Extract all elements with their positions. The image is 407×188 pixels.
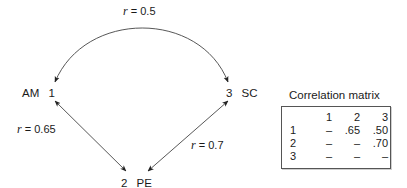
edge-sc-pe bbox=[148, 101, 228, 171]
r-symbol: r bbox=[123, 4, 128, 18]
node-name: SC bbox=[242, 87, 258, 99]
edge-am-sc-arc bbox=[55, 28, 228, 82]
col-header: 3 bbox=[360, 111, 388, 124]
row-header: 2 bbox=[290, 137, 304, 150]
node-name: AM bbox=[22, 87, 39, 99]
matrix-cell: .50 bbox=[360, 124, 388, 137]
r-symbol: r bbox=[191, 138, 196, 152]
matrix-row: 1 – .65 .50 bbox=[290, 124, 388, 137]
correlation-matrix: 1 2 3 1 – .65 .50 2 – – .70 3 – – – bbox=[281, 106, 391, 169]
matrix-row: 2 – – .70 bbox=[290, 137, 388, 150]
matrix-cell: .65 bbox=[332, 124, 360, 137]
node-name: PE bbox=[137, 177, 152, 188]
row-header: 1 bbox=[290, 124, 304, 137]
r-symbol: r bbox=[17, 122, 22, 136]
matrix-title: Correlation matrix bbox=[289, 88, 380, 102]
edge-label-am-sc: r = 0.5 bbox=[123, 5, 156, 18]
col-header: 2 bbox=[332, 111, 360, 124]
node-sc: 3 SC bbox=[226, 86, 258, 100]
matrix-cell: – bbox=[304, 124, 332, 137]
r-value: = 0.65 bbox=[25, 123, 56, 135]
col-header: 1 bbox=[304, 111, 332, 124]
matrix-header-row: 1 2 3 bbox=[290, 111, 388, 124]
matrix-row: 3 – – – bbox=[290, 150, 388, 163]
edge-label-sc-pe: r = 0.7 bbox=[191, 139, 224, 152]
matrix-cell: .70 bbox=[360, 137, 388, 150]
edge-am-pe bbox=[55, 101, 126, 171]
row-header: 3 bbox=[290, 150, 304, 163]
node-number: 3 bbox=[226, 87, 232, 99]
node-number: 2 bbox=[121, 177, 127, 188]
edge-label-am-pe: r = 0.65 bbox=[17, 123, 56, 136]
matrix-cell: – bbox=[332, 137, 360, 150]
matrix-cell: – bbox=[332, 150, 360, 163]
r-value: = 0.7 bbox=[199, 139, 224, 151]
node-number: 1 bbox=[48, 87, 54, 99]
node-am: AM 1 bbox=[22, 86, 55, 100]
matrix-cell: – bbox=[360, 150, 388, 163]
node-pe: 2 PE bbox=[121, 176, 152, 188]
matrix-table: 1 2 3 1 – .65 .50 2 – – .70 3 – – – bbox=[290, 111, 388, 163]
matrix-cell: – bbox=[304, 137, 332, 150]
matrix-cell: – bbox=[304, 150, 332, 163]
r-value: = 0.5 bbox=[131, 5, 156, 17]
